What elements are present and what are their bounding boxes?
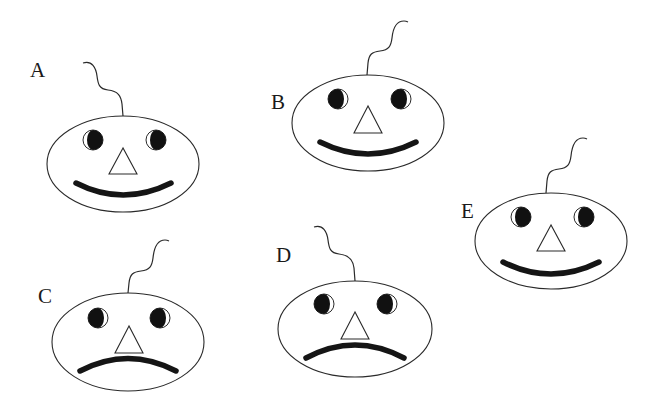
faces-diagram: A B C <box>0 0 658 398</box>
face-a: A <box>30 58 199 212</box>
face-c: C <box>38 240 204 391</box>
stem-icon <box>367 21 408 75</box>
stem-icon <box>83 62 123 116</box>
left-eye-icon <box>83 130 103 150</box>
face-label-b: B <box>271 90 285 114</box>
right-eye-icon <box>150 308 170 328</box>
left-eye-icon <box>314 294 334 314</box>
stem-icon <box>314 226 355 281</box>
right-eye-icon <box>146 130 166 150</box>
stem-icon <box>546 138 587 193</box>
face-e: E <box>461 138 627 289</box>
face-b: B <box>271 21 444 171</box>
right-eye-icon <box>391 89 411 109</box>
face-d: D <box>276 226 432 377</box>
left-eye-icon <box>88 308 108 328</box>
face-label-a: A <box>30 58 46 82</box>
right-eye-icon <box>574 207 594 227</box>
face-label-d: D <box>276 243 291 267</box>
face-label-e: E <box>461 199 474 223</box>
left-eye-icon <box>511 207 531 227</box>
stem-icon <box>128 240 169 293</box>
face-label-c: C <box>38 284 52 308</box>
left-eye-icon <box>328 89 348 109</box>
right-eye-icon <box>377 294 397 314</box>
